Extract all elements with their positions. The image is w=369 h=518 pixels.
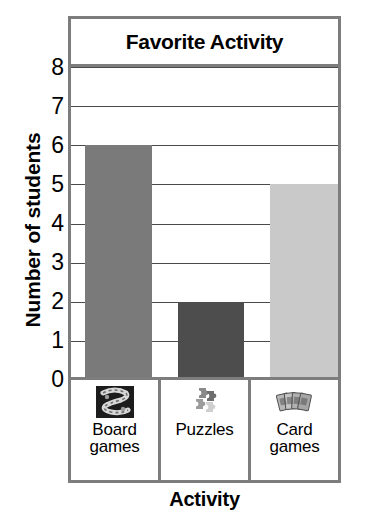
y-tick-4: 4 bbox=[38, 212, 64, 235]
y-tick-5: 5 bbox=[38, 173, 64, 196]
category-label-puzzles: Puzzles bbox=[175, 421, 233, 438]
chart-frame: Favorite Activity bbox=[68, 16, 341, 483]
bar-board-games[interactable] bbox=[85, 145, 152, 380]
y-tick-2: 2 bbox=[38, 290, 64, 313]
bars-group bbox=[71, 67, 338, 380]
y-tick-3: 3 bbox=[38, 251, 64, 274]
y-tick-1: 1 bbox=[38, 329, 64, 352]
y-tick-6: 6 bbox=[38, 134, 64, 157]
y-tick-8: 8 bbox=[38, 56, 64, 79]
plot-area bbox=[71, 67, 338, 380]
bar-puzzles[interactable] bbox=[178, 302, 244, 380]
x-axis-title: Activity bbox=[68, 488, 341, 511]
category-card-games[interactable]: Card games bbox=[248, 380, 338, 480]
puzzle-pieces-icon bbox=[184, 384, 226, 420]
board-game-icon bbox=[94, 384, 136, 420]
y-tick-7: 7 bbox=[38, 95, 64, 118]
category-label-card-games: Card games bbox=[269, 421, 319, 455]
category-puzzles[interactable]: Puzzles bbox=[158, 380, 248, 480]
chart-title-box: Favorite Activity bbox=[71, 19, 338, 67]
category-label-line1: Puzzles bbox=[175, 420, 233, 439]
category-board-games[interactable]: Board games bbox=[71, 380, 158, 480]
y-tick-0: 0 bbox=[38, 368, 64, 391]
category-label-line2: games bbox=[89, 438, 139, 455]
bar-card-games[interactable] bbox=[270, 184, 338, 380]
playing-cards-icon bbox=[274, 384, 316, 420]
chart-title: Favorite Activity bbox=[126, 30, 284, 54]
category-label-line2: games bbox=[269, 438, 319, 455]
y-axis-tick-labels: 8 7 6 5 4 3 2 1 0 bbox=[36, 0, 64, 518]
category-strip: Board games bbox=[71, 377, 338, 480]
bar-chart: Number of students 8 7 6 5 4 3 2 1 0 Fav… bbox=[0, 0, 369, 518]
category-label-board-games: Board games bbox=[89, 421, 139, 455]
